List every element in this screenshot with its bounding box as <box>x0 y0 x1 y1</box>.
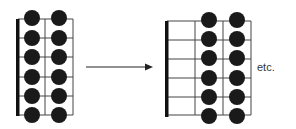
etc-label: etc. <box>257 61 275 73</box>
left-fretboard <box>16 10 73 123</box>
right-arrow-icon <box>86 64 153 71</box>
left-nut <box>16 19 20 116</box>
right-fretboard <box>165 12 251 124</box>
fretboard-figure <box>0 0 296 129</box>
right-nut <box>165 21 169 117</box>
